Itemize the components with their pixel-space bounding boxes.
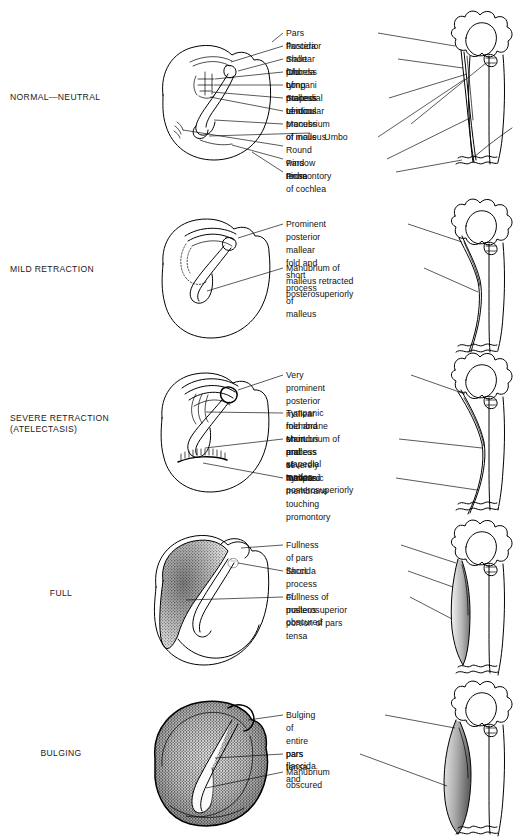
- leader-lines-bulging: [0, 680, 527, 838]
- panel-mild-retraction: MILD RETRACTION: [0, 196, 527, 356]
- leader-lines-normal: [0, 0, 527, 200]
- label-umbo: Umbo: [286, 131, 386, 144]
- label-manubrium-retracted: Manubrium of malleus retracted posterosu…: [286, 262, 354, 301]
- leader-lines-full: [0, 515, 527, 683]
- leader-lines-severe-retraction: [0, 350, 527, 518]
- leader-lines-mild-retraction: [0, 196, 527, 356]
- tympanic-membrane-figure: NORMAL—NEUTRAL: [0, 0, 527, 838]
- panel-bulging: BULGING: [0, 680, 527, 838]
- label-promontory-of-cochlea: Promontory of cochlea: [286, 170, 331, 196]
- panel-severe-retraction: SEVERE RETRACTION (ATELECTASIS): [0, 350, 527, 518]
- label-manubrium-obscured: Manubrium obscured: [286, 766, 330, 792]
- panel-normal-neutral: NORMAL—NEUTRAL: [0, 0, 527, 200]
- panel-full: FULL: [0, 515, 527, 683]
- label-fullness-of-posterosuperior: Fullness of posterosuperior portion of p…: [286, 591, 347, 642]
